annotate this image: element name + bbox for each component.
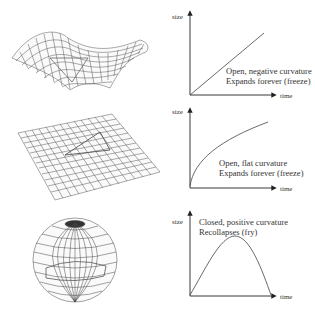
caption-line1: Open, negative curvature [226, 66, 312, 76]
caption-line2: Expands forever (freeze) [219, 168, 304, 178]
y-axis-label: size [172, 218, 183, 226]
graph-open-flat: size time Open, flat curvature Expands f… [172, 108, 304, 193]
saddle-surface-illustration [12, 32, 148, 90]
caption-line1: Open, flat curvature [219, 158, 287, 168]
caption-line1: Closed, positive curvature [199, 217, 288, 227]
caption-line2: Expands forever (freeze) [226, 76, 311, 86]
graph-open-negative: size time Open, negative curvature Expan… [172, 13, 312, 100]
sphere-illustration [33, 218, 117, 302]
y-axis-label: size [172, 108, 183, 116]
x-axis-label: time [280, 92, 292, 100]
caption-line2: Recollapses (fry) [199, 227, 257, 237]
y-axis-label: size [172, 13, 183, 21]
recollapse-curve [190, 236, 271, 295]
x-axis-label: time [280, 185, 292, 193]
flat-plane-illustration [18, 114, 160, 200]
graph-closed-positive: size time Closed, positive curvature Rec… [172, 213, 292, 301]
x-axis-label: time [280, 293, 292, 301]
